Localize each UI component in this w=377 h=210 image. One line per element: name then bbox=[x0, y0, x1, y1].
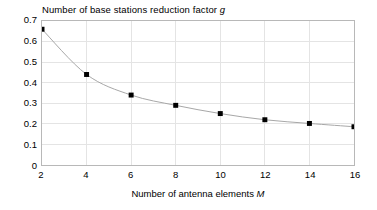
y-axis-tick-label: 0.6 bbox=[0, 36, 37, 46]
y-axis-tick-labels: 00.10.20.30.40.50.60.7 bbox=[0, 20, 37, 166]
x-axis-tick-label: 10 bbox=[205, 169, 235, 180]
x-axis-tick-label: 4 bbox=[71, 169, 101, 180]
data-point-marker bbox=[218, 111, 223, 116]
data-point-marker bbox=[262, 117, 267, 122]
x-axis-title-variable: M bbox=[257, 188, 265, 199]
data-point-marker bbox=[173, 103, 178, 108]
chart-title: Number of base stations reduction factor… bbox=[42, 4, 225, 16]
x-axis-title-text: Number of antenna elements bbox=[131, 188, 256, 199]
y-axis-tick-label: 0.4 bbox=[0, 78, 37, 88]
x-axis-tick-label: 8 bbox=[161, 169, 191, 180]
x-axis-tick-label: 16 bbox=[340, 169, 370, 180]
data-point-marker bbox=[352, 124, 354, 129]
y-axis-tick-label: 0.2 bbox=[0, 119, 37, 129]
x-axis-tick-label: 12 bbox=[250, 169, 280, 180]
data-point-marker bbox=[307, 121, 312, 126]
chart-container: Number of base stations reduction factor… bbox=[0, 0, 377, 210]
x-axis-tick-label: 6 bbox=[116, 169, 146, 180]
chart-title-variable: g bbox=[220, 4, 225, 15]
y-axis-tick-label: 0.5 bbox=[0, 57, 37, 67]
data-series bbox=[42, 21, 354, 165]
data-point-marker bbox=[129, 93, 134, 98]
data-point-marker bbox=[84, 72, 89, 77]
series-line bbox=[42, 29, 354, 127]
chart-title-text: Number of base stations reduction factor bbox=[42, 4, 220, 15]
y-axis-tick-label: 0.3 bbox=[0, 98, 37, 108]
y-axis-tick-label: 0.7 bbox=[0, 15, 37, 25]
plot-area bbox=[41, 20, 355, 166]
x-axis-tick-label: 14 bbox=[295, 169, 325, 180]
x-axis-tick-labels: 246810121416 bbox=[41, 169, 355, 183]
x-axis-title: Number of antenna elements M bbox=[41, 188, 355, 200]
x-axis-tick-label: 2 bbox=[26, 169, 56, 180]
data-point-marker bbox=[42, 27, 44, 32]
y-axis-tick-label: 0.1 bbox=[0, 140, 37, 150]
